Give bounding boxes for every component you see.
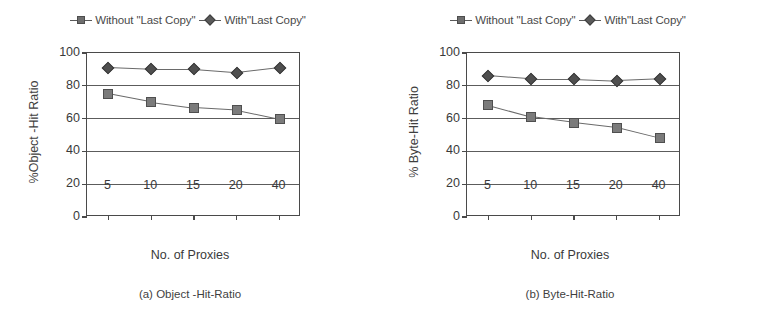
legend-entry-without-last-copy: Without "Last Copy" — [450, 14, 579, 26]
x-tick-mark — [659, 215, 660, 220]
x-tick-mark — [531, 215, 532, 220]
series-line-segment — [151, 102, 194, 109]
y-tick-label: 0 — [73, 209, 80, 223]
x-tick-mark — [108, 215, 109, 220]
chart-panel-object-hit-ratio: Without "Last Copy" With"Last Copy" %Obj… — [0, 0, 380, 328]
x-tick-label: 15 — [186, 178, 200, 192]
y-tick-mark — [462, 85, 467, 86]
legend-entry-without-last-copy: Without "Last Copy" — [70, 14, 199, 26]
legend-entry-with-last-copy: With"Last Copy" — [199, 14, 309, 26]
legend-label: With"Last Copy" — [224, 14, 309, 26]
y-tick-label: 100 — [439, 45, 460, 59]
series-line-segment — [574, 122, 617, 128]
y-tick-labels: 020406080100 — [44, 46, 80, 231]
x-tick-label: 40 — [652, 178, 666, 192]
x-tick-mark — [193, 215, 194, 220]
data-point-square — [655, 133, 665, 143]
chart-panel-byte-hit-ratio: Without "Last Copy" With"Last Copy" % By… — [380, 0, 760, 328]
series-line-segment — [617, 127, 660, 139]
x-tick-mark — [616, 215, 617, 220]
data-point-diamond — [145, 63, 158, 76]
x-tick-label: 5 — [104, 178, 111, 192]
y-tick-mark — [462, 118, 467, 119]
square-marker-icon — [450, 15, 472, 26]
legend-panel-a: Without "Last Copy" With"Last Copy" — [0, 14, 380, 26]
data-point-square — [189, 103, 199, 113]
panel-caption: (a) Object -Hit-Ratio — [0, 288, 380, 300]
x-tick-mark — [488, 215, 489, 220]
data-point-diamond — [188, 63, 201, 76]
y-tick-mark — [82, 85, 87, 86]
x-tick-label: 20 — [609, 178, 623, 192]
figure-row: Without "Last Copy" With"Last Copy" %Obj… — [0, 0, 760, 328]
x-axis-label: No. of Proxies — [380, 248, 760, 262]
gridline — [467, 151, 679, 152]
diamond-marker-icon — [199, 15, 221, 26]
y-tick-label: 60 — [446, 111, 460, 125]
data-point-square — [569, 118, 579, 128]
x-tick-mark — [236, 215, 237, 220]
x-tick-labels: 510152040 — [86, 178, 300, 196]
diamond-marker-icon — [579, 15, 601, 26]
x-tick-label: 10 — [523, 178, 537, 192]
x-tick-mark — [573, 215, 574, 220]
legend-panel-b: Without "Last Copy" With"Last Copy" — [380, 14, 760, 26]
series-line-segment — [488, 105, 531, 118]
y-tick-label: 80 — [446, 78, 460, 92]
y-tick-mark — [82, 52, 87, 53]
y-tick-label: 100 — [59, 45, 80, 59]
y-tick-labels: 020406080100 — [424, 46, 460, 231]
data-point-diamond — [482, 70, 495, 83]
x-tick-label: 15 — [566, 178, 580, 192]
x-tick-mark — [279, 215, 280, 220]
data-point-diamond — [653, 73, 666, 86]
legend-label: Without "Last Copy" — [475, 14, 579, 26]
y-tick-mark — [82, 118, 87, 119]
y-tick-label: 40 — [446, 143, 460, 157]
x-tick-label: 5 — [484, 178, 491, 192]
y-tick-label: 80 — [66, 78, 80, 92]
plot-area-wrapper: 020406080100 — [380, 46, 760, 231]
data-point-diamond — [525, 73, 538, 86]
data-point-square — [483, 100, 493, 110]
gridline — [87, 151, 299, 152]
data-point-square — [612, 123, 622, 133]
x-tick-label: 20 — [229, 178, 243, 192]
y-tick-mark — [462, 216, 467, 217]
plot-area-wrapper: 020406080100 — [0, 46, 380, 231]
data-point-diamond — [102, 61, 115, 74]
y-tick-label: 20 — [66, 176, 80, 190]
legend-label: With"Last Copy" — [604, 14, 689, 26]
y-tick-mark — [82, 151, 87, 152]
data-point-square — [526, 112, 536, 122]
legend-entry-with-last-copy: With"Last Copy" — [579, 14, 689, 26]
x-tick-labels: 510152040 — [466, 178, 680, 196]
x-tick-label: 40 — [272, 178, 286, 192]
y-tick-label: 20 — [446, 176, 460, 190]
x-axis-label: No. of Proxies — [0, 248, 380, 262]
gridline — [87, 85, 299, 86]
series-line-segment — [108, 93, 151, 102]
data-point-diamond — [230, 66, 243, 79]
y-tick-label: 40 — [66, 143, 80, 157]
y-tick-label: 0 — [453, 209, 460, 223]
data-point-square — [146, 97, 156, 107]
x-tick-mark — [151, 215, 152, 220]
legend-label: Without "Last Copy" — [95, 14, 199, 26]
y-tick-mark — [462, 151, 467, 152]
y-tick-mark — [82, 216, 87, 217]
panel-caption: (b) Byte-Hit-Ratio — [380, 288, 760, 300]
series-line-segment — [194, 107, 237, 111]
y-tick-mark — [462, 52, 467, 53]
y-tick-label: 60 — [66, 111, 80, 125]
gridline — [87, 118, 299, 119]
data-point-square — [275, 114, 285, 124]
data-point-square — [232, 105, 242, 115]
data-point-diamond — [568, 73, 581, 86]
x-tick-label: 10 — [143, 178, 157, 192]
square-marker-icon — [70, 15, 92, 26]
data-point-diamond — [273, 61, 286, 74]
data-point-square — [103, 89, 113, 99]
